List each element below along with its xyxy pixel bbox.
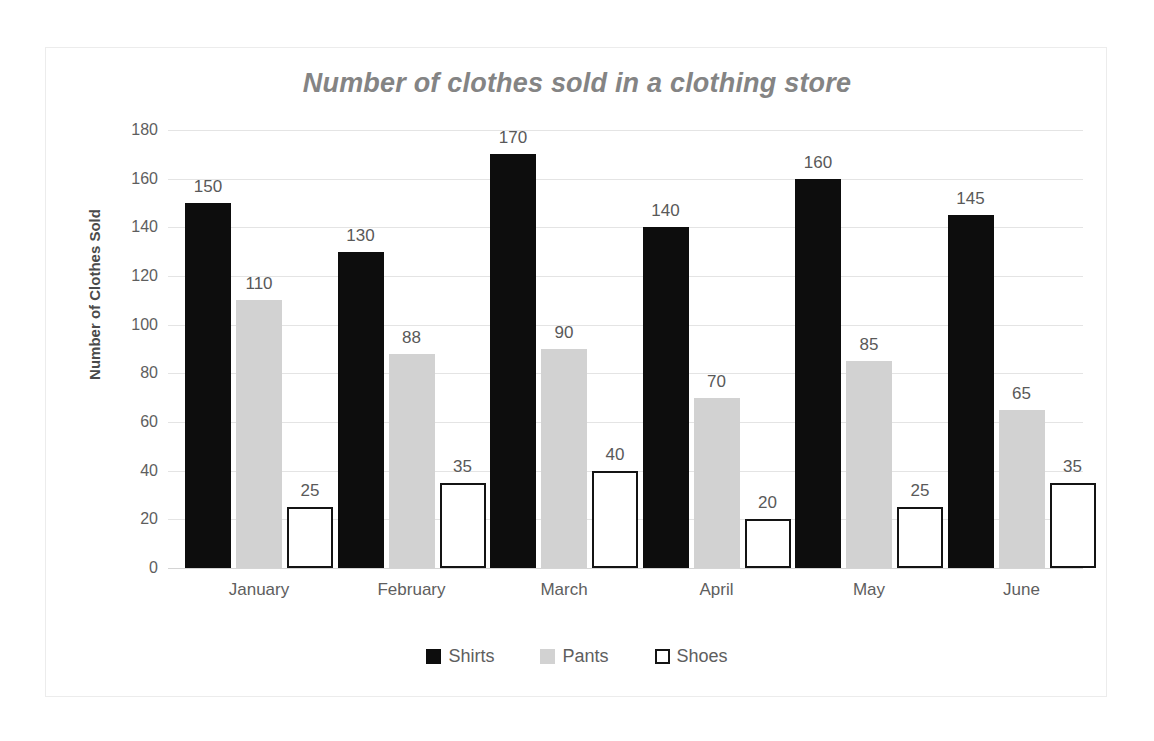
bar-shoes-may: [897, 507, 943, 568]
bar-value-label: 150: [194, 177, 222, 197]
gridline: [168, 276, 1083, 277]
gridline: [168, 130, 1083, 131]
bar-value-label: 160: [804, 153, 832, 173]
legend-item-pants[interactable]: Pants: [540, 646, 608, 667]
bar-shirts-may: [795, 179, 841, 568]
y-axis-tick-label: 80: [98, 364, 158, 382]
bar-value-label: 145: [956, 189, 984, 209]
x-axis-tick-label: May: [853, 580, 885, 600]
bar-value-label: 170: [499, 128, 527, 148]
bar-value-label: 65: [1012, 384, 1031, 404]
bar-shoes-march: [592, 471, 638, 568]
bar-pants-march: [541, 349, 587, 568]
bar-pants-april: [694, 398, 740, 568]
legend-item-label: Shoes: [677, 646, 728, 667]
chart-screenshot: Number of clothes sold in a clothing sto…: [0, 0, 1154, 741]
plot-area: 1501102513088351709040140702016085251456…: [168, 130, 1083, 568]
outlined-square-icon: [655, 649, 670, 664]
bar-shirts-february: [338, 252, 384, 568]
bar-pants-may: [846, 361, 892, 568]
bar-value-label: 25: [301, 481, 320, 501]
gridline: [168, 373, 1083, 374]
y-axis-tick-label: 140: [98, 218, 158, 236]
bar-value-label: 85: [860, 335, 879, 355]
gray-square-icon: [540, 649, 555, 664]
chart-legend: ShirtsPantsShoes: [0, 646, 1154, 667]
x-axis-tick-label: February: [377, 580, 445, 600]
bar-value-label: 35: [453, 457, 472, 477]
gridline: [168, 422, 1083, 423]
x-axis-tick-label: March: [540, 580, 587, 600]
bar-shoes-january: [287, 507, 333, 568]
bar-shirts-march: [490, 154, 536, 568]
bar-shoes-february: [440, 483, 486, 568]
bar-value-label: 140: [651, 201, 679, 221]
x-axis-tick-labels: JanuaryFebruaryMarchAprilMayJune: [168, 580, 1083, 606]
legend-item-shirts[interactable]: Shirts: [426, 646, 494, 667]
y-axis-tick-label: 60: [98, 413, 158, 431]
bar-value-label: 88: [402, 328, 421, 348]
bar-value-label: 20: [758, 493, 777, 513]
bar-pants-june: [999, 410, 1045, 568]
y-axis-tick-label: 0: [98, 559, 158, 577]
legend-item-label: Shirts: [448, 646, 494, 667]
chart-title: Number of clothes sold in a clothing sto…: [0, 68, 1154, 99]
bar-value-label: 70: [707, 372, 726, 392]
black-square-icon: [426, 649, 441, 664]
bar-shirts-april: [643, 227, 689, 568]
gridline: [168, 179, 1083, 180]
bar-shoes-april: [745, 519, 791, 568]
bar-pants-january: [236, 300, 282, 568]
y-axis-tick-label: 40: [98, 462, 158, 480]
y-axis-tick-label: 100: [98, 316, 158, 334]
bar-value-label: 130: [346, 226, 374, 246]
y-axis-tick-labels: 180160140120100806040200: [98, 130, 158, 568]
bar-pants-february: [389, 354, 435, 568]
legend-item-label: Pants: [562, 646, 608, 667]
bar-value-label: 110: [245, 274, 272, 294]
x-axis-tick-label: June: [1003, 580, 1040, 600]
y-axis-tick-label: 120: [98, 267, 158, 285]
gridline: [168, 227, 1083, 228]
bar-shoes-june: [1050, 483, 1096, 568]
bar-value-label: 25: [911, 481, 930, 501]
bar-value-label: 90: [555, 323, 574, 343]
y-axis-tick-label: 20: [98, 510, 158, 528]
bar-shirts-june: [948, 215, 994, 568]
bar-value-label: 35: [1063, 457, 1082, 477]
x-axis-tick-label: April: [699, 580, 733, 600]
legend-item-shoes[interactable]: Shoes: [655, 646, 728, 667]
y-axis-tick-label: 180: [98, 121, 158, 139]
gridline: [168, 325, 1083, 326]
x-axis-tick-label: January: [229, 580, 289, 600]
y-axis-tick-label: 160: [98, 170, 158, 188]
bar-shirts-january: [185, 203, 231, 568]
gridline: [168, 568, 1083, 569]
bar-value-label: 40: [606, 445, 625, 465]
